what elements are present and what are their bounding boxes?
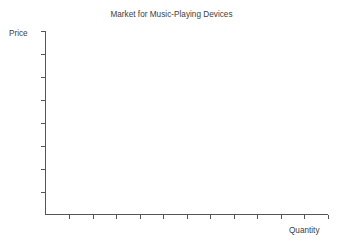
plot-area bbox=[0, 0, 343, 248]
chart-figure: Market for Music-Playing Devices Price Q… bbox=[0, 0, 343, 248]
x-axis bbox=[46, 215, 329, 220]
x-axis-ticks bbox=[70, 215, 329, 220]
y-axis-ticks bbox=[41, 32, 46, 193]
y-axis bbox=[41, 31, 46, 215]
